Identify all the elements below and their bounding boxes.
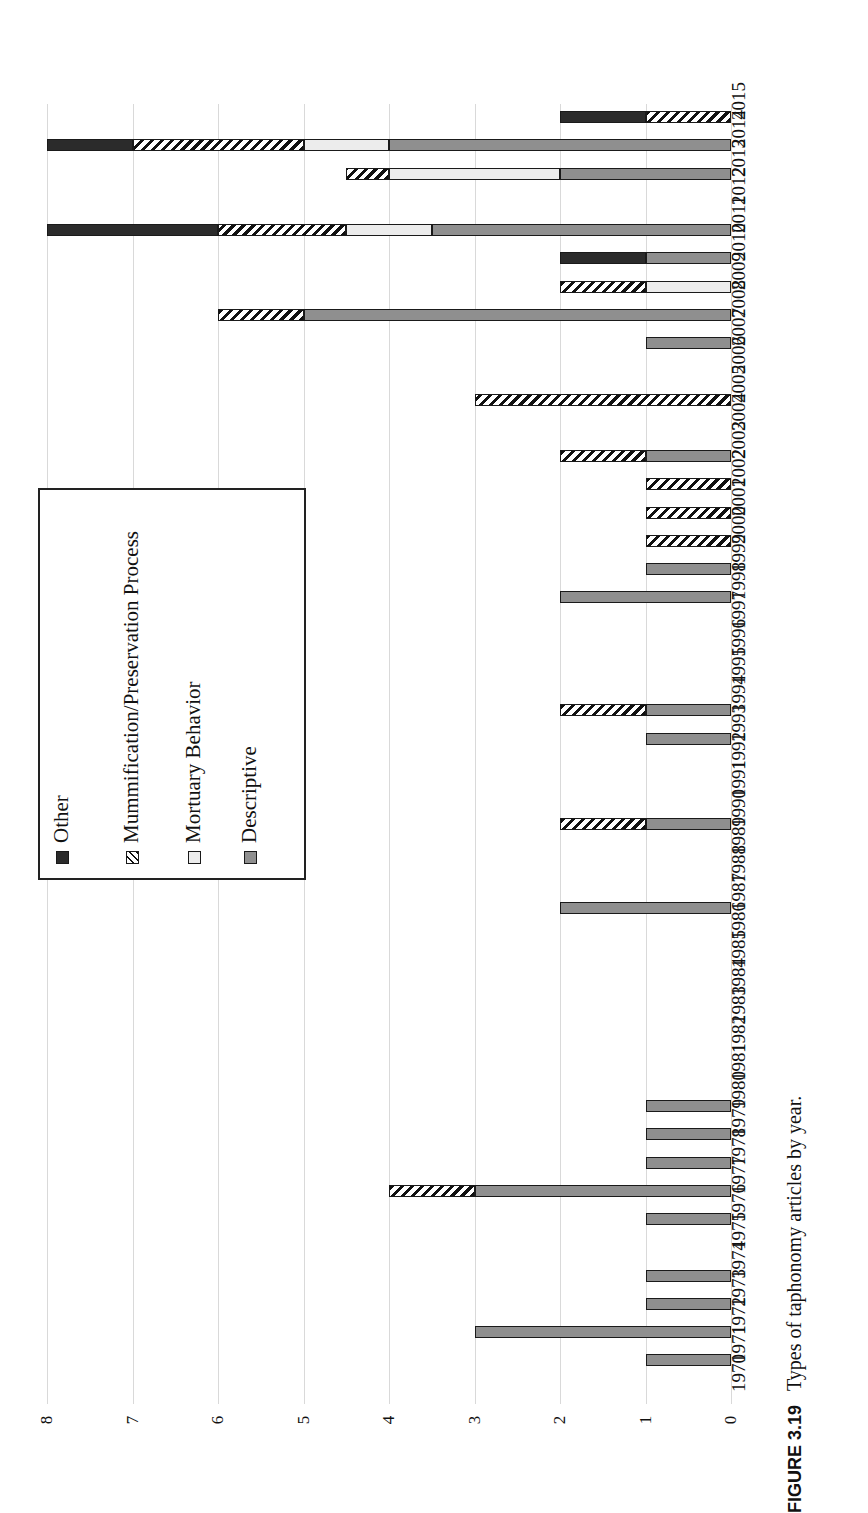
bar-segment-mummification-2008 [218,309,304,321]
bar-segment-other-2011 [47,224,218,236]
bar-2003 [47,450,731,462]
bar-1977 [47,1185,731,1197]
chart-row-2006: 2006 [47,358,731,386]
bar-segment-mummification-2011 [218,224,346,236]
bar-segment-mummification-1990 [560,818,646,830]
bar-1973 [47,1298,731,1310]
chart-row-2009: 2009 [47,274,731,302]
legend-swatch-descriptive-icon [244,851,257,864]
bar-1970 [47,1383,731,1395]
chart-row-1986: 1986 [47,924,731,952]
chart-row-1971: 1971 [47,1347,731,1375]
bar-segment-descriptive-1976 [646,1213,732,1225]
bar-segment-mummification-2013 [346,168,389,180]
bar-segment-descriptive-1999 [646,563,732,575]
chart-row-2013: 2013 [47,161,731,189]
x-tick-6: 6 [208,1405,228,1435]
chart-row-2010: 2010 [47,245,731,273]
bar-1974 [47,1270,731,1282]
bar-segment-mortuary-2009 [646,281,732,293]
bar-segment-mummification-2003 [560,450,646,462]
x-tick-7: 7 [123,1405,143,1435]
bar-1979 [47,1128,731,1140]
chart-row-1983: 1983 [47,1008,731,1036]
bar-1980 [47,1100,731,1112]
x-tick-4: 4 [379,1405,399,1435]
bar-segment-mummification-2001 [646,507,732,519]
x-tick-2: 2 [550,1405,570,1435]
bar-segment-descriptive-1980 [646,1100,732,1112]
bar-segment-mummification-2009 [560,281,646,293]
x-tick-3: 3 [465,1405,485,1435]
figure-number: FIGURE 3.19 [785,1405,805,1513]
bar-1978 [47,1157,731,1169]
bar-segment-descriptive-1987 [560,902,731,914]
legend-label-mortuary: Mortuary Behavior [181,681,206,843]
bar-2011 [47,224,731,236]
chart-row-2015: 2015 [47,104,731,132]
bar-1981 [47,1072,731,1084]
chart-row-2014: 2014 [47,132,731,160]
bar-segment-descriptive-2013 [560,168,731,180]
bar-segment-descriptive-2010 [646,252,732,264]
bar-1985 [47,959,731,971]
bar-segment-mortuary-2011 [346,224,432,236]
bar-1983 [47,1015,731,1027]
caption-text: Types of taphonomy articles by year. [783,1096,805,1391]
year-label-1970: 1970 [726,1366,752,1392]
legend-swatch-mummification-icon [126,851,139,864]
chart-row-1981: 1981 [47,1065,731,1093]
bar-segment-mortuary-2014 [304,139,390,151]
bar-segment-descriptive-1974 [646,1270,732,1282]
chart-row-2005: 2005 [47,387,731,415]
bar-segment-descriptive-2011 [432,224,731,236]
bar-1976 [47,1213,731,1225]
bar-segment-other-2015 [560,111,646,123]
bar-2008 [47,309,731,321]
chart-row-2011: 2011 [47,217,731,245]
x-axis-tick-labels: 876543210 [47,1410,731,1450]
chart-row-1970: 1970 [47,1376,731,1404]
chart-row-1980: 1980 [47,1093,731,1121]
chart-row-1977: 1977 [47,1178,731,1206]
bar-2006 [47,365,731,377]
bar-1984 [47,987,731,999]
bar-1975 [47,1241,731,1253]
x-tick-5: 5 [294,1405,314,1435]
legend-item-mummification: Mummification/Preservation Process [119,531,144,864]
bar-2007 [47,337,731,349]
bar-1986 [47,931,731,943]
chart-legend: OtherMummification/Preservation ProcessM… [38,488,306,880]
legend-label-other: Other [49,795,74,843]
chart-row-1984: 1984 [47,980,731,1008]
bar-segment-descriptive-1990 [646,818,732,830]
chart-row-1973: 1973 [47,1291,731,1319]
bar-segment-mummification-1994 [560,704,646,716]
bar-1972 [47,1326,731,1338]
legend-swatch-other-icon [56,851,69,864]
bar-1982 [47,1044,731,1056]
chart-row-1976: 1976 [47,1206,731,1234]
bar-segment-descriptive-2007 [646,337,732,349]
bar-segment-descriptive-2014 [389,139,731,151]
chart-row-1979: 1979 [47,1121,731,1149]
bar-2004 [47,422,731,434]
chart-row-1985: 1985 [47,952,731,980]
legend-swatch-mortuary-icon [188,851,201,864]
x-tick-0: 0 [721,1405,741,1435]
bar-segment-mummification-2005 [475,394,732,406]
bar-2009 [47,281,731,293]
bar-2013 [47,168,731,180]
chart-row-2008: 2008 [47,302,731,330]
bar-segment-mortuary-2013 [389,168,560,180]
bar-segment-descriptive-2008 [304,309,732,321]
figure-caption: FIGURE 3.19Types of taphonomy articles b… [783,1096,806,1513]
bar-segment-other-2010 [560,252,646,264]
bar-segment-other-2014 [47,139,133,151]
x-tick-8: 8 [37,1405,57,1435]
bar-segment-mummification-2002 [646,478,732,490]
chart-row-1987: 1987 [47,895,731,923]
legend-label-mummification: Mummification/Preservation Process [119,531,144,843]
chart-row-2012: 2012 [47,189,731,217]
